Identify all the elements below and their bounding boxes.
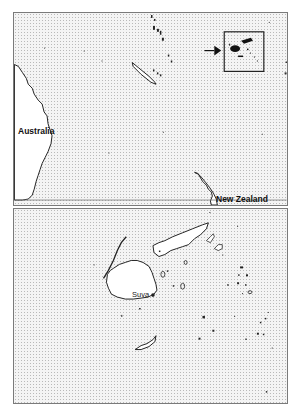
new-caledonia [132, 62, 156, 84]
overview-map-shapes [14, 13, 287, 205]
scattered-islets [44, 22, 287, 154]
fiji-mini-islands [229, 38, 258, 62]
arrow-icon [204, 46, 221, 56]
overview-map-panel: Australia New Zealand [13, 12, 288, 206]
label-suva: Suva [132, 290, 149, 299]
label-australia: Australia [18, 126, 54, 136]
fiji-inset-box [224, 32, 264, 72]
vanuatu-islands [151, 15, 172, 76]
taveuni-island [206, 234, 214, 243]
detail-map-shapes [14, 209, 287, 403]
suva-marker [151, 293, 155, 297]
qamea-island [214, 245, 222, 251]
label-new-zealand: New Zealand [216, 194, 268, 204]
lomaiviti-islands [161, 260, 252, 293]
detail-map-panel: Suva [13, 208, 288, 404]
vanua-levu-island [153, 223, 208, 257]
kadavu-island [135, 336, 156, 350]
